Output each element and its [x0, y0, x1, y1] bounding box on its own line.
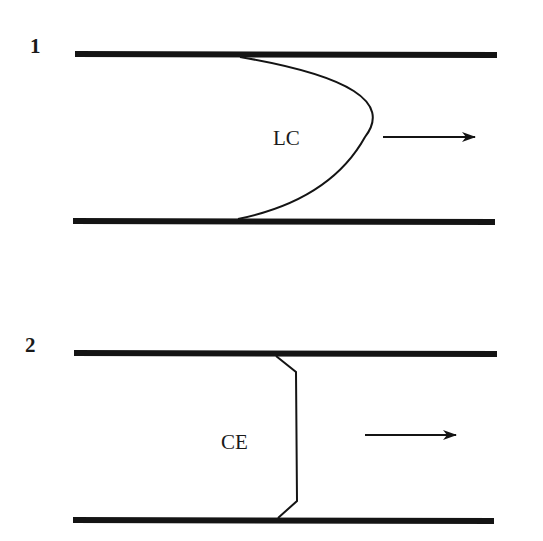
diagram-canvas: 1 LC 2 CE — [0, 0, 543, 541]
flat-flow-front — [276, 356, 297, 518]
panel-number-2: 2 — [25, 333, 36, 357]
panel-1: 1 LC — [30, 34, 497, 222]
region-label-ce: CE — [221, 430, 248, 454]
channel-wall-bottom — [73, 221, 495, 222]
channel-wall-top — [74, 353, 497, 354]
channel-wall-bottom — [73, 520, 494, 521]
curved-flow-front — [238, 57, 373, 219]
panel-2: 2 CE — [25, 333, 497, 521]
region-label-lc: LC — [273, 126, 300, 150]
diagram-svg: 1 LC 2 CE — [0, 0, 543, 541]
panel-number-1: 1 — [30, 34, 41, 58]
channel-wall-top — [75, 54, 497, 55]
